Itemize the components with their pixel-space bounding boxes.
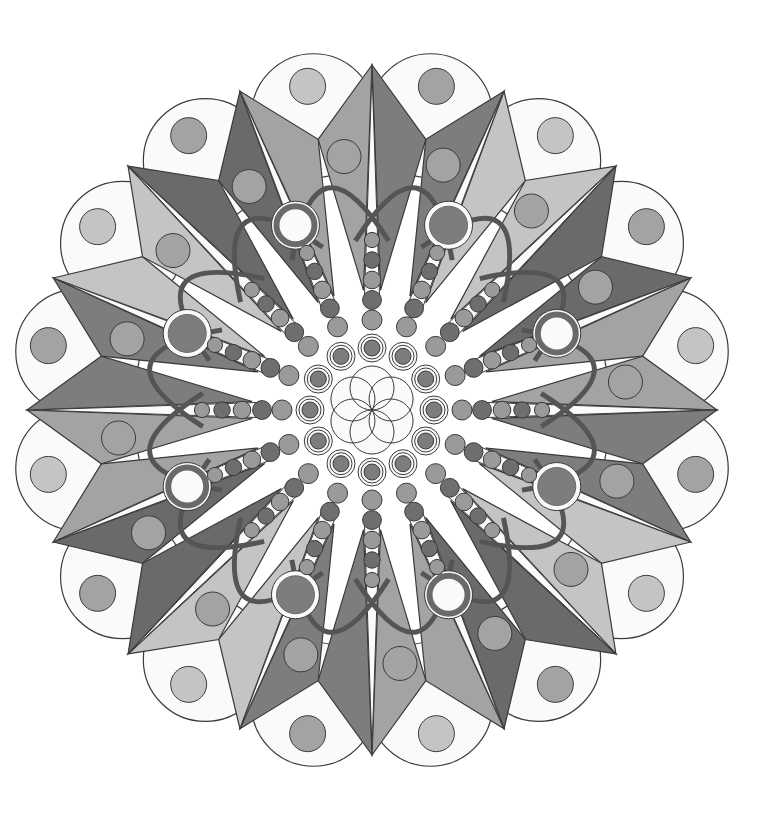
bead (493, 401, 511, 419)
bead (485, 523, 500, 538)
eye-inner (276, 576, 314, 614)
bullseye-core (418, 433, 434, 449)
bead (233, 401, 251, 419)
bead (272, 400, 292, 420)
mandala-drawing (0, 0, 767, 819)
bead (207, 467, 222, 482)
bead (483, 451, 501, 469)
bead (440, 478, 459, 497)
bead (464, 443, 483, 462)
bullseye-core (395, 348, 411, 364)
bead (514, 402, 530, 418)
facet-dot (600, 464, 634, 498)
bead (298, 464, 318, 484)
petal-dot (678, 456, 714, 492)
petal-dot (171, 666, 207, 702)
bead (421, 263, 437, 279)
bead (258, 508, 274, 524)
bead (502, 344, 518, 360)
petal-dot (678, 328, 714, 364)
bullseye-core (333, 348, 349, 364)
petal-dot (628, 575, 664, 611)
bullseye-core (395, 456, 411, 472)
bead (285, 323, 304, 342)
bead (194, 402, 209, 417)
bullseye-core (364, 340, 380, 356)
facet-dot (578, 270, 612, 304)
facet-dot (554, 552, 588, 586)
facet-dot (383, 646, 417, 680)
bead (440, 323, 459, 342)
petal-dot (537, 666, 573, 702)
bead (483, 351, 501, 369)
bead (313, 521, 331, 539)
facet-dot (478, 616, 512, 650)
facet-dot (196, 592, 230, 626)
bead (299, 559, 314, 574)
bead (363, 531, 381, 549)
facet-dot (232, 170, 266, 204)
bead (455, 493, 473, 511)
bead (363, 271, 381, 289)
bead (321, 502, 340, 521)
petal-dot (290, 716, 326, 752)
bead (244, 282, 259, 297)
bead (445, 366, 465, 386)
bead (362, 490, 382, 510)
petal-dot (30, 456, 66, 492)
bead (321, 299, 340, 318)
bead (363, 511, 382, 530)
bead (470, 296, 486, 312)
bullseye-core (333, 456, 349, 472)
bead (214, 402, 230, 418)
facet-dot (284, 638, 318, 672)
bead (261, 443, 280, 462)
bead (279, 434, 299, 454)
eye-inner (168, 314, 206, 352)
bead (464, 359, 483, 378)
bead (421, 540, 437, 556)
bead (485, 282, 500, 297)
bead (207, 337, 222, 352)
petal-dot (80, 575, 116, 611)
bead (225, 344, 241, 360)
petal-dot (171, 118, 207, 154)
bead (521, 467, 536, 482)
bead (364, 232, 379, 247)
bullseye-core (418, 371, 434, 387)
bullseye-core (310, 433, 326, 449)
mandala-canvas (0, 0, 767, 819)
facet-dot (102, 421, 136, 455)
center-flower (328, 366, 416, 454)
bead (261, 359, 280, 378)
bullseye-core (310, 371, 326, 387)
facet-dot (132, 516, 166, 550)
facet-dot (156, 234, 190, 268)
bead (470, 508, 486, 524)
bead (313, 281, 331, 299)
bead (405, 502, 424, 521)
bead (413, 521, 431, 539)
bead (455, 309, 473, 327)
facet-dot (426, 148, 460, 182)
eye-inner (168, 468, 206, 506)
bead (426, 464, 446, 484)
bead (243, 351, 261, 369)
bead (534, 402, 549, 417)
bead (328, 317, 348, 337)
bead (473, 401, 492, 420)
bead (405, 299, 424, 318)
bead (426, 336, 446, 356)
bead (521, 337, 536, 352)
facet-dot (110, 322, 144, 356)
bead (396, 317, 416, 337)
facet-dot (608, 365, 642, 399)
bead (362, 310, 382, 330)
bead (271, 493, 289, 511)
petal-dot (537, 118, 573, 154)
bead (502, 459, 518, 475)
bead (244, 523, 259, 538)
petal-dot (418, 68, 454, 104)
petal-dot (628, 209, 664, 245)
bead (364, 572, 379, 587)
